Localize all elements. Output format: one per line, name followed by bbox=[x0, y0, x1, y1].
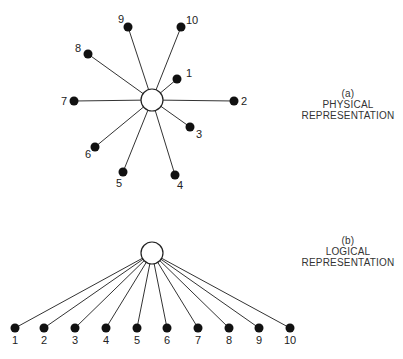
physical-hub-node bbox=[141, 89, 163, 111]
physical-node-label-6: 6 bbox=[85, 148, 91, 160]
physical-caption-line1: PHYSICAL bbox=[290, 99, 403, 110]
physical-link-4 bbox=[152, 100, 175, 175]
logical-node-6 bbox=[163, 324, 172, 333]
physical-node-label-4: 4 bbox=[177, 179, 183, 191]
logical-node-label-8: 8 bbox=[226, 334, 232, 346]
star-topology-diagram: 12345678910 12345678910 bbox=[0, 0, 403, 359]
logical-caption-line1: LOGICAL bbox=[290, 246, 403, 257]
logical-node-label-4: 4 bbox=[103, 334, 109, 346]
logical-node-label-3: 3 bbox=[72, 334, 78, 346]
logical-link-1 bbox=[15, 253, 152, 328]
physical-node-1 bbox=[173, 75, 182, 84]
physical-link-5 bbox=[123, 100, 152, 172]
logical-link-10 bbox=[152, 253, 290, 328]
physical-link-7 bbox=[74, 100, 152, 101]
logical-link-2 bbox=[44, 253, 152, 328]
physical-nodes: 12345678910 bbox=[61, 13, 247, 191]
physical-node-6 bbox=[91, 143, 100, 152]
logical-node-label-10: 10 bbox=[284, 334, 296, 346]
physical-node-label-9: 9 bbox=[118, 13, 124, 25]
logical-caption-tag: (b) bbox=[290, 235, 403, 246]
physical-node-7 bbox=[70, 97, 79, 106]
physical-node-label-3: 3 bbox=[196, 128, 202, 140]
logical-node-label-7: 7 bbox=[195, 334, 201, 346]
physical-caption-tag: (a) bbox=[290, 88, 403, 99]
physical-link-2 bbox=[152, 100, 234, 101]
logical-hub-node bbox=[141, 242, 163, 264]
logical-nodes: 12345678910 bbox=[11, 242, 297, 346]
logical-node-4 bbox=[102, 324, 111, 333]
physical-node-3 bbox=[186, 123, 195, 132]
physical-node-5 bbox=[119, 168, 128, 177]
physical-node-label-1: 1 bbox=[186, 67, 192, 79]
logical-node-3 bbox=[71, 324, 80, 333]
logical-node-1 bbox=[11, 324, 20, 333]
physical-node-8 bbox=[84, 50, 93, 59]
logical-node-label-1: 1 bbox=[12, 334, 18, 346]
physical-caption-line2: REPRESENTATION bbox=[290, 110, 403, 121]
logical-node-9 bbox=[255, 324, 264, 333]
physical-node-label-7: 7 bbox=[61, 95, 67, 107]
logical-node-label-5: 5 bbox=[134, 334, 140, 346]
logical-node-2 bbox=[40, 324, 49, 333]
physical-node-9 bbox=[124, 23, 133, 32]
logical-node-5 bbox=[133, 324, 142, 333]
logical-node-label-6: 6 bbox=[164, 334, 170, 346]
physical-node-label-10: 10 bbox=[186, 14, 198, 26]
logical-node-7 bbox=[194, 324, 203, 333]
logical-node-10 bbox=[286, 324, 295, 333]
logical-link-9 bbox=[152, 253, 259, 328]
logical-caption: (b) LOGICAL REPRESENTATION bbox=[290, 235, 403, 268]
physical-node-label-8: 8 bbox=[75, 42, 81, 54]
physical-link-8 bbox=[88, 54, 152, 100]
physical-node-label-5: 5 bbox=[116, 177, 122, 189]
physical-node-label-2: 2 bbox=[241, 95, 247, 107]
physical-node-10 bbox=[177, 23, 186, 32]
logical-link-3 bbox=[75, 253, 152, 328]
logical-node-label-2: 2 bbox=[41, 334, 47, 346]
physical-node-2 bbox=[230, 97, 239, 106]
logical-link-8 bbox=[152, 253, 229, 328]
logical-node-label-9: 9 bbox=[256, 334, 262, 346]
logical-node-8 bbox=[225, 324, 234, 333]
logical-caption-line2: REPRESENTATION bbox=[290, 257, 403, 268]
physical-link-10 bbox=[152, 27, 181, 100]
physical-caption: (a) PHYSICAL REPRESENTATION bbox=[290, 88, 403, 121]
